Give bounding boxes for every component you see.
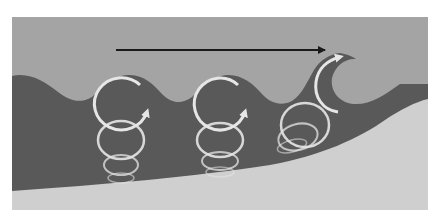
wave-breaking-diagram [0,0,439,220]
